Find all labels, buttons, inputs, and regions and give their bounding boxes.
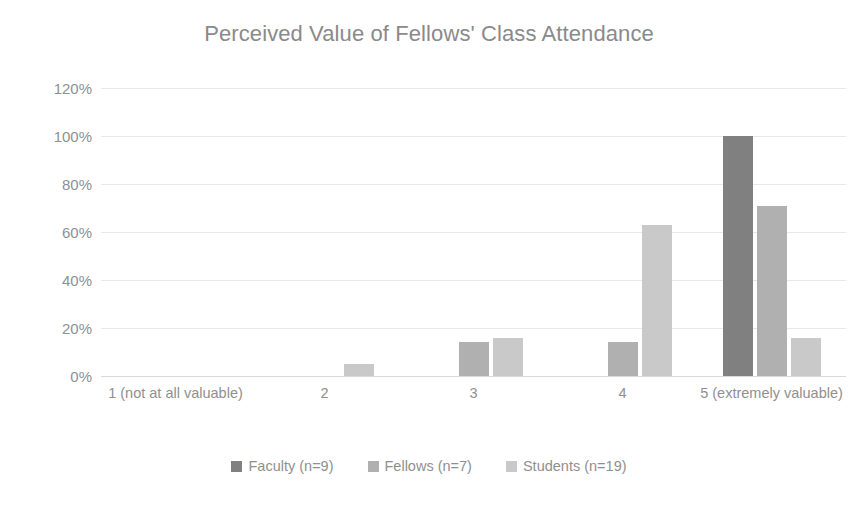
legend-swatch-icon [231,461,242,472]
x-axis: 1 (not at all valuable)2345 (extremely v… [101,384,846,446]
bar-group [250,88,399,376]
bar-group [399,88,548,376]
y-axis: 0%20%40%60%80%100%120% [0,88,92,376]
bar-group [697,88,846,376]
y-axis-tick-label: 40% [0,272,92,289]
y-axis-tick-label: 80% [0,176,92,193]
legend-label: Faculty (n=9) [248,458,333,474]
x-axis-tick-label: 5 (extremely valuable) [697,384,846,403]
y-axis-tick-label: 100% [0,128,92,145]
bar [459,342,489,376]
x-axis-tick-label: 2 [250,384,399,403]
legend-item[interactable]: Students (n=19) [506,458,627,474]
bar-group [101,88,250,376]
bar [642,225,672,376]
y-axis-tick-label: 0% [0,368,92,385]
bar [791,338,821,376]
bar-group [548,88,697,376]
y-axis-tick-label: 120% [0,80,92,97]
x-axis-tick-label: 3 [399,384,548,403]
x-axis-line [101,376,846,377]
legend-label: Students (n=19) [523,458,627,474]
bar [757,206,787,376]
legend-item[interactable]: Faculty (n=9) [231,458,333,474]
legend-swatch-icon [506,461,517,472]
bar [493,338,523,376]
legend-swatch-icon [368,461,379,472]
y-axis-tick-label: 60% [0,224,92,241]
bar [344,364,374,376]
x-axis-tick-label: 1 (not at all valuable) [101,384,250,403]
x-axis-tick-label: 4 [548,384,697,403]
bar [723,136,753,376]
legend-label: Fellows (n=7) [385,458,472,474]
chart-title: Perceived Value of Fellows' Class Attend… [0,21,858,47]
chart-legend: Faculty (n=9)Fellows (n=7)Students (n=19… [0,458,858,474]
bars-layer [101,88,846,376]
bar-chart: Perceived Value of Fellows' Class Attend… [0,0,858,523]
bar [608,342,638,376]
y-axis-tick-label: 20% [0,320,92,337]
legend-item[interactable]: Fellows (n=7) [368,458,472,474]
